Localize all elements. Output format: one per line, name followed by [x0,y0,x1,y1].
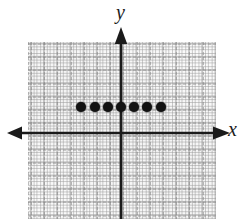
y-axis-up-arrow-icon [115,27,127,44]
y-axis-label: y [116,2,125,22]
data-point [142,102,152,112]
data-point [129,102,139,112]
x-axis-label: x [228,119,237,139]
coordinate-plane-figure: y x [0,0,239,219]
data-point [103,102,113,112]
data-point [156,102,166,112]
data-point [116,102,126,112]
data-point [76,102,86,112]
x-axis-left-arrow-icon [7,127,22,140]
data-point [90,102,100,112]
